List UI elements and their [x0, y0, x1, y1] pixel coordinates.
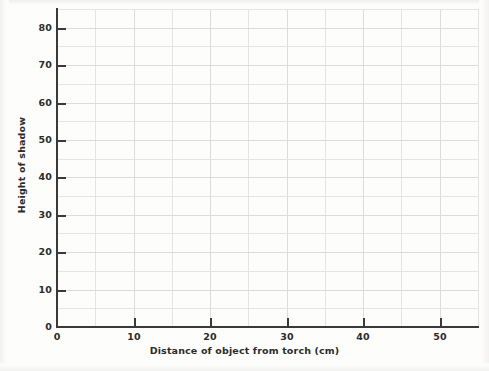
x-axis-tick-label: 30: [267, 331, 307, 342]
paper-edge-bottom: [0, 363, 489, 371]
y-axis-tick: [58, 177, 66, 179]
gridline-horizontal: [57, 65, 478, 66]
gridline-horizontal: [57, 233, 478, 234]
gridline-vertical: [95, 9, 96, 327]
gridline-horizontal: [57, 215, 478, 216]
gridline-vertical: [440, 9, 441, 327]
gridline-vertical: [363, 9, 364, 327]
gridline-horizontal: [57, 252, 478, 253]
gridline-horizontal: [57, 84, 478, 85]
gridline-vertical: [172, 9, 173, 327]
gridline-horizontal: [57, 28, 478, 29]
gridline-vertical: [325, 9, 326, 327]
y-axis-tick: [58, 28, 66, 30]
y-axis-tick: [58, 140, 66, 142]
x-axis-tick: [363, 318, 365, 327]
x-axis-title: Distance of object from torch (cm): [0, 345, 489, 356]
x-axis-tick-label: 10: [114, 331, 154, 342]
gridline-vertical: [401, 9, 402, 327]
gridline-horizontal: [57, 46, 478, 47]
gridline-vertical: [478, 9, 479, 327]
y-axis-tick: [58, 215, 66, 217]
gridline-horizontal: [57, 196, 478, 197]
y-axis-tick: [58, 103, 66, 105]
x-axis-tick-label: 40: [343, 331, 383, 342]
gridline-horizontal: [57, 121, 478, 122]
plot-area: [57, 9, 478, 327]
gridline-horizontal: [57, 9, 478, 10]
x-axis-tick: [287, 318, 289, 327]
x-axis-tick: [134, 318, 136, 327]
y-axis-title-wrapper: Height of shadow: [14, 65, 28, 265]
y-axis-tick: [58, 290, 66, 292]
gridline-vertical: [287, 9, 288, 327]
y-axis-tick: [58, 252, 66, 254]
y-axis-tick-label: 10: [22, 284, 52, 295]
gridline-horizontal: [57, 308, 478, 309]
gridline-horizontal: [57, 290, 478, 291]
paper-edge-left: [0, 0, 9, 371]
gridline-horizontal: [57, 271, 478, 272]
y-axis-tick-label: 80: [22, 22, 52, 33]
gridline-horizontal: [57, 140, 478, 141]
y-axis-title: Height of shadow: [16, 117, 27, 213]
paper-edge-top: [0, 0, 489, 7]
x-axis-line: [57, 326, 479, 328]
paper-edge-right: [479, 0, 489, 371]
y-axis-tick: [58, 65, 66, 67]
chart-page: 01020304050607080 01020304050 Distance o…: [0, 0, 489, 371]
x-axis-tick-label: 20: [190, 331, 230, 342]
gridline-horizontal: [57, 103, 478, 104]
gridline-vertical: [248, 9, 249, 327]
gridline-vertical: [210, 9, 211, 327]
y-axis-line: [56, 8, 58, 328]
x-axis-tick-label: 0: [37, 331, 77, 342]
gridline-vertical: [134, 9, 135, 327]
x-axis-tick: [210, 318, 212, 327]
x-axis-tick-label: 50: [420, 331, 460, 342]
gridline-horizontal: [57, 177, 478, 178]
gridline-horizontal: [57, 159, 478, 160]
x-axis-tick: [440, 318, 442, 327]
